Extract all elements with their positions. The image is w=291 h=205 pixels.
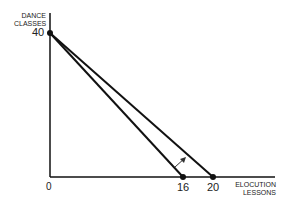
budget-line-16 (50, 33, 183, 177)
x-tick-0: 0 (46, 181, 52, 192)
budget-line-20 (50, 33, 213, 177)
x-tick-20: 20 (207, 181, 219, 193)
x-axis-label-line1: ELOCUTION (230, 181, 276, 189)
x-axis-label-line2: LESSONS (230, 189, 276, 197)
shift-arrow-icon (175, 157, 186, 167)
y-axis-label-line1: DANCE (14, 12, 46, 20)
point-20 (210, 174, 216, 180)
x-tick-16: 16 (177, 181, 189, 193)
point-40 (47, 30, 53, 36)
x-axis-label: ELOCUTION LESSONS (230, 181, 276, 197)
y-tick-40: 40 (32, 26, 44, 38)
point-16 (180, 174, 186, 180)
